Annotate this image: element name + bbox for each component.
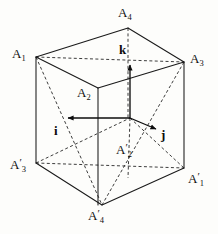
vertex-label-base: A (118, 5, 127, 20)
vertex-label-subscript: 2 (86, 92, 90, 102)
vertex-label-A1: A1 (12, 47, 26, 60)
vertex-label-A2: A2 (77, 86, 91, 99)
vertex-label-subscript: 3 (199, 58, 203, 68)
vertex-label-base: A (188, 171, 197, 186)
edge-A4p-A1p (102, 168, 184, 205)
edge-A1-A2 (36, 57, 98, 88)
vertex-label-subscript: 4 (127, 12, 131, 22)
vertex-label-subscript: 1 (21, 53, 25, 63)
vertex-label-subscript: 3 (22, 164, 26, 174)
edge-A1-A4 (36, 28, 128, 57)
vertex-label-base: A (77, 85, 86, 100)
vertex-label-base: A (12, 46, 21, 61)
edge-A2-A3 (98, 62, 184, 88)
vertex-label-base: A (10, 157, 19, 172)
vertex-label-A3p: A′3 (10, 158, 26, 171)
vector-label-i: i (54, 124, 58, 137)
hidden-edge-A1-A3 (36, 57, 184, 62)
vector-arrow-j (130, 118, 156, 129)
cube-vector-figure: A1A4A3A2A′3A′4A′1A′2 ijk (0, 0, 218, 234)
vertex-label-subscript: 2 (128, 149, 132, 159)
hidden-edge-A2p-A1p (130, 118, 184, 168)
vector-label-k: k (119, 43, 126, 56)
tetra-edge-A1-A4p (36, 57, 102, 205)
vertex-label-A1p: A′1 (188, 172, 204, 185)
vertex-label-A3: A3 (190, 52, 204, 65)
cube-diagram-canvas (0, 0, 218, 234)
vertex-label-A4: A4 (118, 6, 132, 19)
visible-edges-group (36, 28, 184, 205)
vector-label-j: j (161, 128, 165, 141)
vertex-label-A4p: A′4 (88, 209, 104, 222)
vertex-label-subscript: 1 (200, 178, 204, 188)
vertex-label-subscript: 4 (100, 215, 104, 225)
edge-A4-A3 (128, 28, 184, 62)
tetra-edge-A3p-A1p (36, 163, 184, 168)
vertex-label-base: A (190, 51, 199, 66)
edge-A3p-A4p (36, 163, 102, 205)
vertex-label-base: A (116, 142, 125, 157)
vertex-label-base: A (88, 208, 97, 223)
vertex-label-A2p: A′2 (116, 143, 132, 156)
